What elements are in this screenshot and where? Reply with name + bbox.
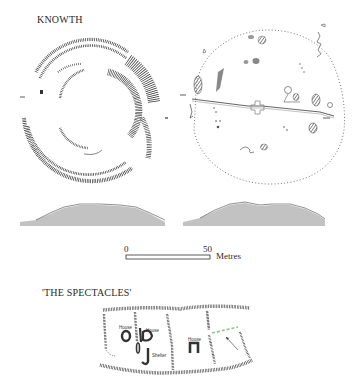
- knowth-profile-right: [183, 202, 325, 226]
- diagram-canvas: [0, 0, 352, 382]
- scale-start-label: 0: [124, 244, 129, 254]
- house-label-3: House: [188, 337, 201, 342]
- knowth-right-plan: [180, 24, 344, 184]
- house-label-1: House: [119, 325, 132, 330]
- scale-end-label: 50: [203, 244, 212, 254]
- knowth-profile-left: [20, 204, 165, 226]
- knowth-left-plan: [20, 39, 168, 181]
- house-label-2: House: [146, 328, 159, 333]
- scale-unit-label: Metres: [216, 251, 241, 261]
- spectacles-title: 'THE SPECTACLES': [42, 287, 132, 298]
- scale-bar: [126, 255, 210, 259]
- shelter-label: Shelter: [152, 353, 166, 358]
- spectacles-plan: [100, 306, 252, 373]
